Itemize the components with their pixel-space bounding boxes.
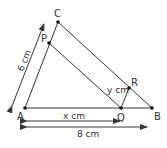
segment-pq: [49, 43, 121, 108]
dimension-label-ac: 6 cm: [16, 48, 34, 72]
side-cb: [58, 22, 152, 108]
label-a: A: [17, 111, 24, 122]
point-a: [23, 106, 27, 110]
point-q: [119, 106, 123, 110]
label-b: B: [154, 111, 161, 122]
point-b: [150, 106, 154, 110]
label-c: C: [54, 8, 61, 19]
label-p: P: [41, 33, 47, 44]
point-p: [47, 41, 51, 45]
dimension-label-aq: x cm: [63, 111, 85, 121]
dimension-label-qr: y cm: [107, 85, 129, 95]
triangle-diagram: A B C P Q R 6 cm y cm x cm 8 cm: [0, 0, 167, 148]
dimension-label-ab: 8 cm: [77, 129, 99, 139]
point-c: [56, 20, 60, 24]
label-r: R: [131, 77, 138, 88]
